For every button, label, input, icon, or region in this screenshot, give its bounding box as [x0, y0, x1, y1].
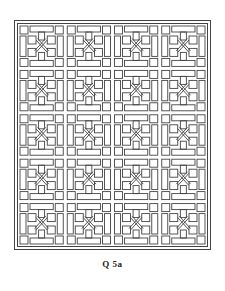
lattice-pattern-graphic: [14, 20, 211, 250]
figure-caption: Q 5a: [0, 259, 225, 269]
lattice-pattern-figure: [14, 20, 211, 250]
